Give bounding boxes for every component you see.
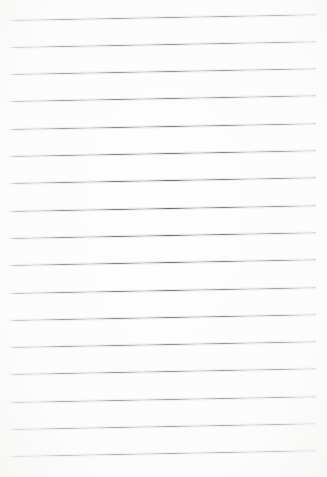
ruled-line: [9, 232, 316, 239]
ruled-line: [9, 205, 316, 212]
ruled-line: [9, 259, 316, 266]
ruled-line: [9, 287, 316, 294]
ruled-line: [9, 178, 316, 185]
ruled-line: [9, 96, 316, 103]
ruled-line: [9, 314, 316, 321]
ruled-line: [9, 14, 316, 21]
ruled-line: [9, 123, 316, 130]
lined-paper-page: [0, 0, 327, 477]
ruled-line: [9, 423, 316, 430]
ruled-line: [9, 41, 316, 48]
ruled-line: [9, 451, 316, 458]
ruled-line: [9, 341, 316, 348]
ruled-line: [9, 68, 316, 75]
ruled-lines-group: [0, 0, 327, 477]
ruled-line: [9, 369, 316, 376]
ruled-line: [9, 150, 316, 157]
ruled-line: [9, 396, 316, 403]
